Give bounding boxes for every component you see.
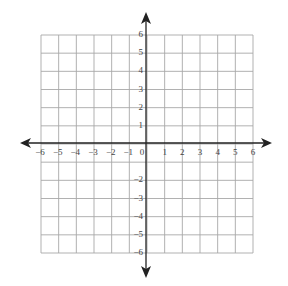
y-tick-label: −3 [133, 193, 143, 203]
x-tick-label: 6 [251, 147, 256, 157]
x-tick-label: −4 [71, 147, 81, 157]
y-tick-label: 5 [139, 47, 144, 57]
x-tick-label: 0 [140, 147, 145, 157]
x-tick-label: −5 [53, 147, 63, 157]
y-tick-label: −4 [133, 211, 143, 221]
y-tick-label: 6 [139, 29, 144, 39]
y-tick-label: −2 [133, 174, 143, 184]
x-tick-label: 2 [180, 147, 185, 157]
y-tick-label: −5 [133, 229, 143, 239]
x-tick-label: −2 [106, 147, 116, 157]
coordinate-plane: −6−5−4−3−2−10123456123456−2−3−4−5−6 [0, 0, 288, 286]
y-tick-label: 4 [139, 65, 144, 75]
x-tick-label: −6 [35, 147, 45, 157]
y-tick-label: −6 [133, 247, 143, 257]
x-tick-label: 3 [198, 147, 203, 157]
y-tick-label: 3 [139, 84, 144, 94]
y-tick-label: 1 [139, 120, 144, 130]
x-tick-label: 5 [233, 147, 238, 157]
x-tick-label: −3 [88, 147, 98, 157]
y-tick-label: 2 [139, 102, 144, 112]
x-tick-label: 1 [162, 147, 167, 157]
x-tick-label: 4 [215, 147, 220, 157]
grid-lines [41, 35, 253, 253]
axes [20, 12, 272, 278]
x-tick-label: −1 [124, 147, 134, 157]
